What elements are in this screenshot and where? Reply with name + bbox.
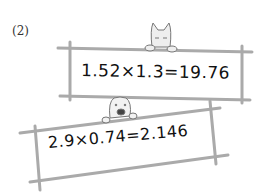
board-frames <box>0 0 269 193</box>
cat-icon <box>145 23 177 52</box>
equation-1: 1.52×1.3=19.76 <box>81 60 230 83</box>
